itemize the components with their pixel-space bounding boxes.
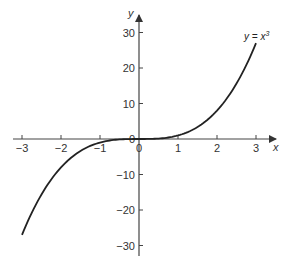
y-tick-label: −30: [116, 240, 135, 252]
y-tick-label: 20: [123, 62, 135, 74]
cubic-function-plot: −3−2−10123−30−20−100102030 x y y = x3: [0, 0, 291, 267]
y-tick-label: 10: [123, 98, 135, 110]
x-tick-label: 3: [253, 142, 259, 154]
x-tick-label: 1: [175, 142, 181, 154]
y-axis-label: y: [127, 7, 135, 19]
x-axis-label: x: [272, 141, 279, 153]
y-tick-label: 30: [123, 27, 135, 39]
y-tick-label: −20: [116, 204, 135, 216]
x-tick-label: −3: [16, 142, 29, 154]
axes: [13, 15, 276, 256]
y-tick-label: −10: [116, 169, 135, 181]
x-tick-label: 2: [214, 142, 220, 154]
equation-label: y = x3: [243, 30, 269, 42]
x-tick-label: 0: [136, 142, 142, 154]
x-tick-label: −2: [55, 142, 68, 154]
